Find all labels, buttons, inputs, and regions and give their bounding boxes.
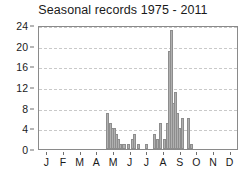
y-tick-mark [30, 26, 34, 27]
x-tick-mark [163, 152, 164, 155]
chart-title: Seasonal records 1975 - 2011 [0, 3, 246, 17]
x-tick-mark [230, 152, 231, 155]
x-tick-mark [63, 152, 64, 155]
x-tick-mark [213, 152, 214, 155]
x-tick-label: F [60, 156, 66, 168]
x-tick-mark [80, 152, 81, 155]
y-axis: 04812162024 [0, 26, 34, 150]
bar [133, 134, 136, 150]
y-tick-mark [30, 67, 34, 68]
bar-series [39, 27, 237, 149]
x-tick-label: D [226, 156, 234, 168]
x-tick-mark [96, 152, 97, 155]
bar [190, 144, 193, 149]
bar [159, 123, 162, 149]
y-tick-label: 4 [22, 123, 28, 135]
bar [122, 144, 125, 149]
y-tick-mark [30, 88, 34, 89]
x-tick-label: J [44, 156, 49, 168]
x-tick-mark [113, 152, 114, 155]
y-tick-mark [30, 108, 34, 109]
x-tick-label: A [93, 156, 100, 168]
y-tick-label: 24 [16, 20, 28, 32]
bar-chart: Seasonal records 1975 - 2011 04812162024… [0, 0, 246, 186]
x-tick-label: O [192, 156, 200, 168]
bar [145, 144, 148, 149]
x-tick-label: J [144, 156, 149, 168]
x-axis: JFMAMJJASOND [38, 152, 238, 172]
y-tick-label: 20 [16, 41, 28, 53]
x-tick-label: S [176, 156, 183, 168]
x-tick-label: N [209, 156, 217, 168]
y-tick-mark [30, 129, 34, 130]
y-tick-mark [30, 46, 34, 47]
x-tick-label: M [75, 156, 84, 168]
x-tick-mark [180, 152, 181, 155]
x-tick-label: A [159, 156, 166, 168]
plot-area [38, 26, 238, 150]
x-tick-label: J [127, 156, 132, 168]
bar [127, 144, 130, 149]
y-tick-label: 12 [16, 82, 28, 94]
x-tick-mark [46, 152, 47, 155]
bar [137, 144, 140, 149]
y-tick-label: 16 [16, 61, 28, 73]
y-tick-mark [30, 150, 34, 151]
bar [181, 118, 184, 149]
x-tick-label: M [109, 156, 118, 168]
y-tick-label: 0 [22, 144, 28, 156]
y-tick-label: 8 [22, 103, 28, 115]
x-tick-mark [130, 152, 131, 155]
x-tick-mark [196, 152, 197, 155]
x-tick-mark [146, 152, 147, 155]
